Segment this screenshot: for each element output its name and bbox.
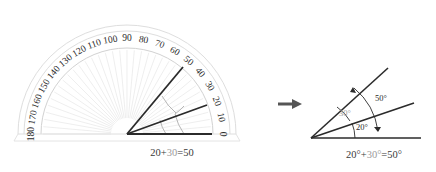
right-equation: 20°+30°=50° (346, 149, 402, 160)
protractor-tick (68, 75, 116, 123)
protractor-tick (73, 70, 117, 122)
left-equation: 20+30=50 (150, 147, 193, 158)
protractor-figure: 0102030405060708090100110120130140150160… (14, 25, 240, 158)
protractor-scale-label-30: 30 (203, 79, 217, 92)
protractor-tick (142, 99, 204, 128)
angle-figure: 20° 30° 50° 20°+30°=50° (311, 68, 421, 160)
outer-arc-50 (175, 106, 184, 114)
protractor-tick (63, 80, 115, 124)
angle-label-30: 30° (339, 108, 351, 118)
protractor-scale-label-100: 100 (102, 33, 118, 45)
protractor-tick (54, 92, 113, 126)
arc-50-arrowhead-top-icon (350, 87, 356, 93)
left-eq-a: 20 (150, 147, 161, 158)
angle-label-20: 20° (356, 122, 368, 132)
protractor-scale-label-60: 60 (168, 44, 181, 58)
protractor-tick (134, 58, 163, 120)
protractor-tick (85, 61, 119, 120)
protractor-scale-label-20: 20 (211, 95, 224, 108)
diagram-svg: 0102030405060708090100110120130140150160… (0, 0, 436, 172)
protractor-scale-label-10: 10 (216, 112, 228, 123)
protractor-scale-label-120: 120 (70, 43, 88, 59)
figure-canvas: 0102030405060708090100110120130140150160… (0, 0, 436, 172)
right-eq-a: 20° (346, 149, 361, 160)
protractor-right-edge (236, 134, 240, 141)
arc-50-arrowhead-bottom-icon (374, 127, 381, 132)
right-eq-b: 30° (367, 149, 382, 160)
protractor-tick (51, 99, 113, 128)
protractor-scale-label-180: 180 (26, 127, 36, 142)
protractor-left-edge (14, 134, 18, 141)
protractor-tick (105, 53, 123, 119)
protractor-tick (46, 112, 112, 130)
right-arc-20 (352, 123, 355, 138)
protractor-scale-label-0: 0 (218, 132, 228, 137)
left-eq-result: 50 (183, 147, 194, 158)
angle-label-50: 50° (375, 93, 387, 103)
right-eq-result: 50° (387, 149, 402, 160)
arrow-head-icon (292, 99, 302, 109)
protractor-tick (131, 53, 149, 119)
protractor-scale-label-150: 150 (36, 77, 52, 95)
protractor-scale-label-70: 70 (154, 38, 167, 51)
right-middle-ray (311, 103, 414, 138)
protractor-scale-label-130: 130 (57, 52, 75, 69)
protractor-tick (92, 58, 121, 120)
protractor-tick (141, 92, 200, 126)
protractor-scale-label-80: 80 (138, 34, 149, 46)
transition-arrow (278, 99, 302, 109)
protractor-scale-label-90: 90 (122, 33, 132, 43)
left-eq-b: 30 (167, 147, 178, 158)
protractor-scale-label-170: 170 (26, 109, 38, 125)
